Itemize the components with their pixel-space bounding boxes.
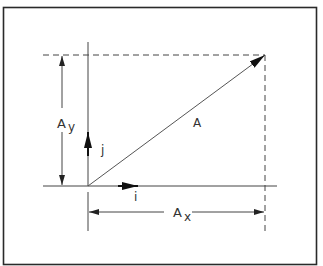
ax-label: Ax	[173, 205, 191, 224]
frame-border	[4, 8, 317, 265]
unit-j-label: j	[100, 143, 104, 157]
ay-label: Ay	[57, 116, 75, 134]
unit-i-label: i	[134, 190, 137, 204]
vector-diagram: A Ay Ax i j	[0, 0, 323, 266]
vector-a-label: A	[193, 116, 202, 130]
vector-a-arrow	[88, 55, 265, 186]
